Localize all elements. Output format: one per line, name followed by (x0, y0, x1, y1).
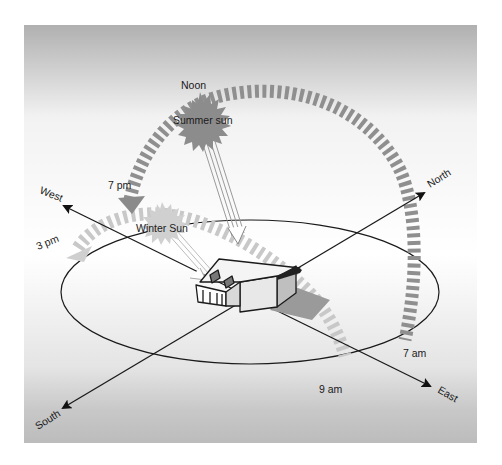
nine-am-label: 9 am (319, 383, 343, 395)
seven-am-label: 7 am (403, 347, 427, 359)
noon-label: Noon (181, 79, 206, 91)
sun-path-diagram: Noon Summer sun Winter Sun 7 pm 3 pm 7 a… (0, 0, 502, 465)
seven-pm-label: 7 pm (108, 179, 132, 191)
summer-sun-label: Summer sun (173, 114, 233, 126)
winter-sun-label: Winter Sun (136, 222, 188, 234)
